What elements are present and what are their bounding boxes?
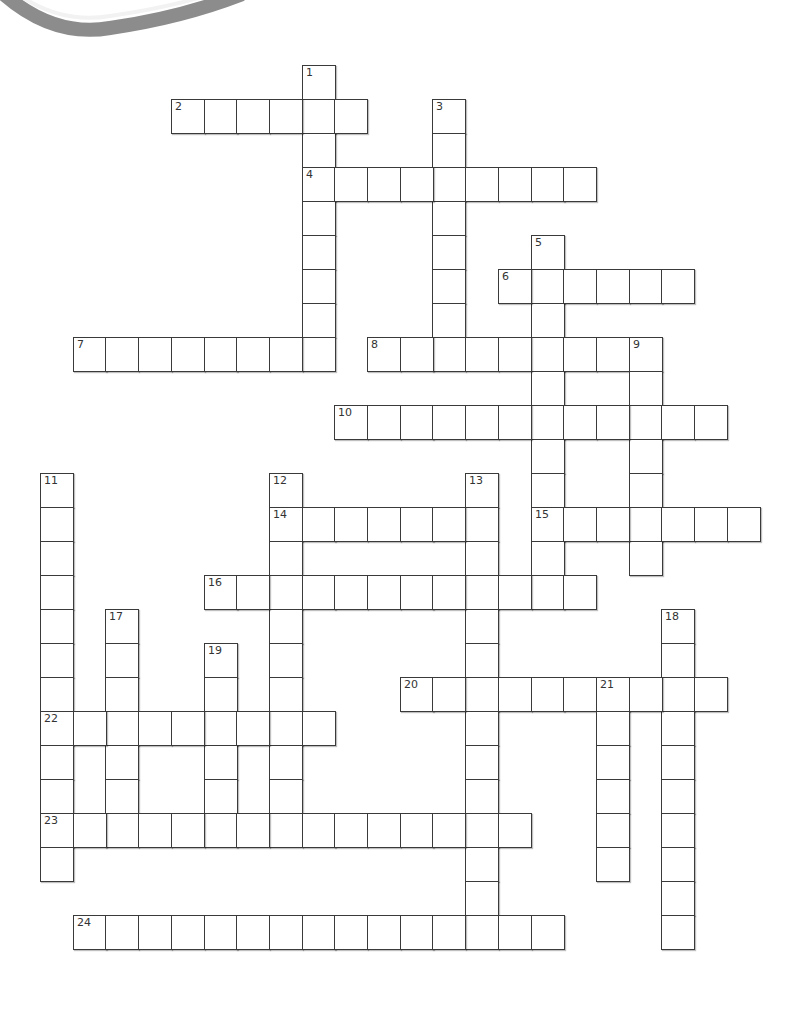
crossword-cell[interactable]: [465, 507, 499, 542]
crossword-cell[interactable]: [432, 133, 466, 168]
crossword-cell[interactable]: [563, 337, 597, 372]
crossword-cell[interactable]: [269, 575, 303, 610]
crossword-cell[interactable]: [432, 303, 466, 338]
crossword-cell[interactable]: [661, 711, 695, 746]
crossword-cell[interactable]: [236, 99, 270, 134]
crossword-cell[interactable]: [334, 813, 368, 848]
crossword-cell[interactable]: [465, 337, 499, 372]
crossword-cell[interactable]: [629, 677, 663, 712]
crossword-cell[interactable]: [596, 507, 630, 542]
crossword-cell[interactable]: [432, 677, 466, 712]
crossword-cell[interactable]: [432, 507, 466, 542]
crossword-cell[interactable]: [694, 677, 728, 712]
crossword-cell[interactable]: [269, 779, 303, 814]
crossword-cell[interactable]: [171, 813, 205, 848]
crossword-cell[interactable]: [465, 915, 499, 950]
crossword-cell[interactable]: [498, 813, 532, 848]
crossword-cell[interactable]: [531, 167, 565, 202]
crossword-cell[interactable]: [498, 337, 532, 372]
crossword-cell[interactable]: 10: [334, 405, 368, 440]
crossword-cell[interactable]: [334, 507, 368, 542]
crossword-cell[interactable]: [465, 677, 499, 712]
crossword-cell[interactable]: [432, 235, 466, 270]
crossword-cell[interactable]: 1: [302, 65, 336, 100]
crossword-cell[interactable]: 8: [367, 337, 401, 372]
crossword-cell[interactable]: [302, 133, 336, 168]
crossword-cell[interactable]: [465, 405, 499, 440]
crossword-cell[interactable]: [400, 337, 434, 372]
crossword-cell[interactable]: [204, 915, 238, 950]
crossword-cell[interactable]: [334, 99, 368, 134]
crossword-cell[interactable]: [204, 745, 238, 780]
crossword-cell[interactable]: [40, 745, 74, 780]
crossword-cell[interactable]: [269, 337, 303, 372]
crossword-cell[interactable]: [531, 677, 565, 712]
crossword-cell[interactable]: [432, 575, 466, 610]
crossword-cell[interactable]: [302, 915, 336, 950]
crossword-cell[interactable]: [40, 575, 74, 610]
crossword-cell[interactable]: [531, 337, 565, 372]
crossword-cell[interactable]: 16: [204, 575, 238, 610]
crossword-cell[interactable]: [204, 337, 238, 372]
crossword-cell[interactable]: [334, 915, 368, 950]
crossword-cell[interactable]: [302, 711, 336, 746]
crossword-cell[interactable]: [40, 677, 74, 712]
crossword-cell[interactable]: [629, 371, 663, 406]
crossword-cell[interactable]: [661, 881, 695, 916]
crossword-cell[interactable]: [302, 507, 336, 542]
crossword-cell[interactable]: [629, 405, 663, 440]
crossword-cell[interactable]: [138, 915, 172, 950]
crossword-cell[interactable]: [465, 167, 499, 202]
crossword-cell[interactable]: [269, 915, 303, 950]
crossword-cell[interactable]: [171, 915, 205, 950]
crossword-cell[interactable]: [531, 303, 565, 338]
crossword-cell[interactable]: [596, 711, 630, 746]
crossword-cell[interactable]: [432, 167, 466, 202]
crossword-cell[interactable]: 24: [73, 915, 107, 950]
crossword-cell[interactable]: 6: [498, 269, 532, 304]
crossword-cell[interactable]: [432, 405, 466, 440]
crossword-cell[interactable]: [661, 507, 695, 542]
crossword-cell[interactable]: [302, 813, 336, 848]
crossword-cell[interactable]: [400, 167, 434, 202]
crossword-cell[interactable]: [105, 677, 139, 712]
crossword-cell[interactable]: [629, 507, 663, 542]
crossword-cell[interactable]: [596, 779, 630, 814]
crossword-cell[interactable]: [661, 813, 695, 848]
crossword-cell[interactable]: 2: [171, 99, 205, 134]
crossword-cell[interactable]: [465, 643, 499, 678]
crossword-cell[interactable]: [302, 235, 336, 270]
crossword-cell[interactable]: [73, 813, 107, 848]
crossword-cell[interactable]: [400, 575, 434, 610]
crossword-cell[interactable]: [40, 847, 74, 882]
crossword-cell[interactable]: [73, 711, 107, 746]
crossword-cell[interactable]: [498, 405, 532, 440]
crossword-cell[interactable]: [302, 99, 336, 134]
crossword-cell[interactable]: [302, 201, 336, 236]
crossword-cell[interactable]: [334, 167, 368, 202]
crossword-cell[interactable]: [661, 643, 695, 678]
crossword-cell[interactable]: [661, 677, 695, 712]
crossword-cell[interactable]: [465, 847, 499, 882]
crossword-cell[interactable]: [269, 813, 303, 848]
crossword-cell[interactable]: [269, 677, 303, 712]
crossword-cell[interactable]: [432, 337, 466, 372]
crossword-cell[interactable]: [269, 609, 303, 644]
crossword-cell[interactable]: [171, 711, 205, 746]
crossword-cell[interactable]: [302, 337, 336, 372]
crossword-cell[interactable]: [596, 337, 630, 372]
crossword-cell[interactable]: [367, 405, 401, 440]
crossword-cell[interactable]: [105, 337, 139, 372]
crossword-cell[interactable]: 7: [73, 337, 107, 372]
crossword-cell[interactable]: [400, 915, 434, 950]
crossword-cell[interactable]: [563, 269, 597, 304]
crossword-cell[interactable]: [563, 677, 597, 712]
crossword-cell[interactable]: [138, 813, 172, 848]
crossword-cell[interactable]: [236, 915, 270, 950]
crossword-cell[interactable]: [465, 711, 499, 746]
crossword-cell[interactable]: 17: [105, 609, 139, 644]
crossword-cell[interactable]: [498, 677, 532, 712]
crossword-cell[interactable]: [531, 473, 565, 508]
crossword-cell[interactable]: 20: [400, 677, 434, 712]
crossword-cell[interactable]: [236, 575, 270, 610]
